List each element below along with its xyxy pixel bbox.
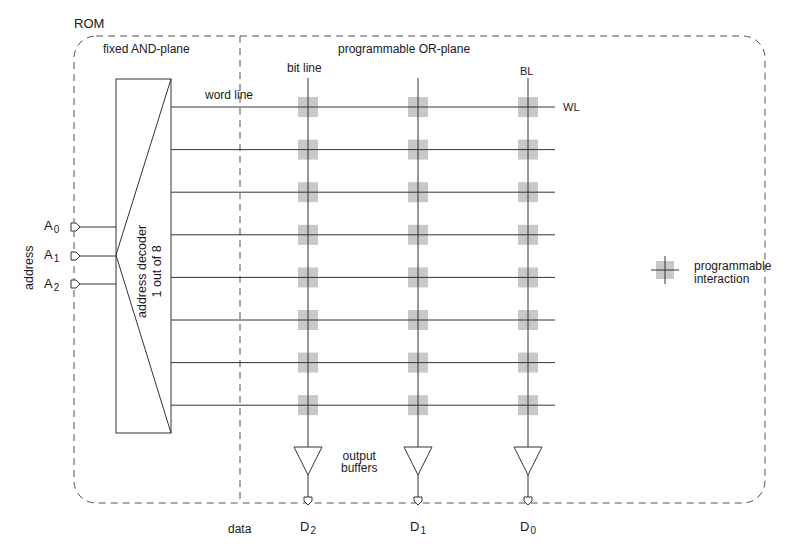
data-output-d1: D1 — [410, 520, 426, 535]
output-pin-d2 — [304, 497, 312, 505]
address-input-lines — [71, 223, 116, 288]
bit-lines — [308, 78, 528, 447]
buffer-d0 — [514, 447, 542, 475]
rom-diagram — [0, 0, 803, 555]
data-output-d0: D0 — [520, 520, 536, 535]
address-decoder-label: address decoder 1 out of 8 — [135, 225, 165, 318]
address-input-a1: A1 — [44, 248, 59, 263]
input-pin-a1 — [71, 252, 80, 260]
word-lines — [171, 107, 555, 405]
output-buffers-label: output buffers — [341, 450, 377, 474]
input-pin-a0 — [71, 223, 80, 231]
or-plane-label: programmable OR-plane — [338, 42, 470, 56]
wl-label: WL — [563, 100, 580, 114]
buffer-d1 — [404, 447, 432, 475]
output-pin-d1 — [414, 497, 422, 505]
rom-title: ROM — [74, 17, 104, 31]
bl-label: BL — [520, 64, 533, 78]
output-buffers — [294, 447, 542, 505]
input-pin-a2 — [71, 280, 80, 288]
legend-label: programmable interaction — [694, 260, 771, 286]
buffer-d2 — [294, 447, 322, 475]
word-line-label: word line — [205, 88, 253, 102]
output-pin-d0 — [524, 497, 532, 505]
bit-line-label: bit line — [287, 61, 322, 75]
address-input-a0: A0 — [44, 219, 59, 234]
and-plane-label: fixed AND-plane — [103, 42, 190, 56]
data-output-d2: D2 — [300, 520, 316, 535]
legend-cell-icon — [651, 256, 679, 284]
address-label: address — [22, 246, 36, 290]
data-label: data — [228, 522, 251, 536]
address-input-a2: A2 — [44, 277, 59, 292]
